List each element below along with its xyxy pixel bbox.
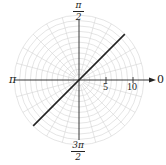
arrow-right-icon	[149, 78, 156, 83]
label-half-pi: π 2	[73, 1, 84, 22]
label-zero: 0	[157, 73, 164, 86]
label-pi: π	[9, 73, 16, 86]
radial-tick-10: 10	[127, 81, 137, 92]
polar-axes	[14, 20, 156, 140]
radial-tick-5: 5	[103, 81, 108, 92]
label-three-half-pi: 3π 2	[71, 141, 85, 162]
